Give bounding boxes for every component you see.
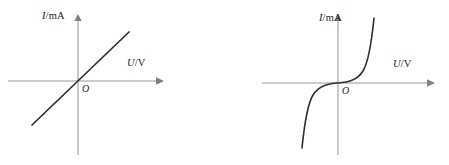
x-axis-unit-cubic: /V (401, 58, 412, 69)
curve-straight-line (32, 32, 129, 125)
x-axis-label-cubic: U/V (393, 58, 411, 69)
figure-cubic-iu-graph: I/mA U/V O (225, 0, 449, 165)
x-axis-unit-linear: /V (135, 57, 146, 68)
y-axis-label-linear: I/mA (42, 10, 65, 21)
x-axis-symbol-cubic: U (393, 58, 401, 69)
y-axis-linear (74, 14, 81, 155)
x-axis-symbol-linear: U (127, 57, 135, 68)
y-axis-cubic (334, 14, 341, 155)
origin-label-linear: O (82, 83, 89, 94)
origin-label-cubic: O (342, 85, 349, 96)
figure-linear-iu-graph: I/mA U/V O (0, 0, 225, 165)
y-axis-unit-cubic: /mA (323, 12, 342, 23)
diagram-canvas: I/mA U/V O I/mA (0, 0, 449, 165)
y-axis-unit-linear: /mA (46, 10, 65, 21)
x-axis-label-linear: U/V (127, 57, 145, 68)
y-axis-label-cubic: I/mA (319, 12, 342, 23)
